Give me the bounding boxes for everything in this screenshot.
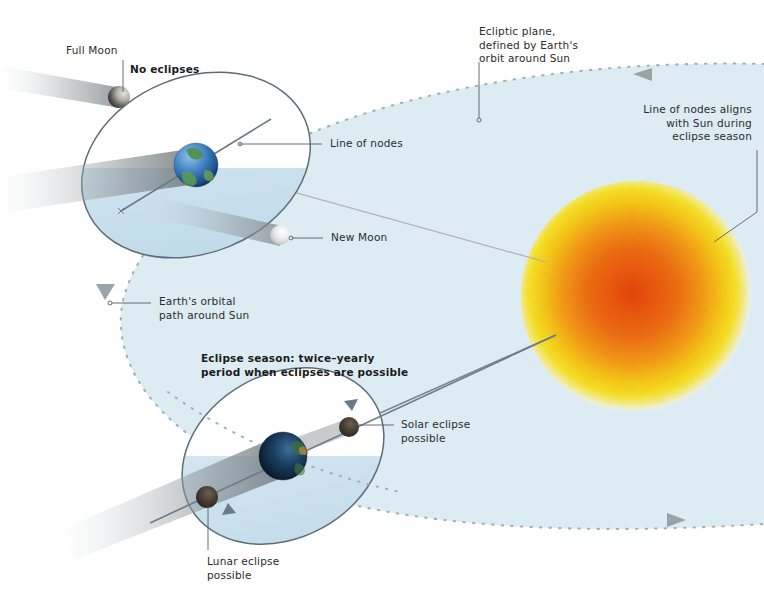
earth-sphere-upper	[174, 143, 218, 187]
sun-sphere	[521, 181, 753, 413]
moon-new-sphere	[270, 225, 290, 245]
moon-solar-eclipse-sphere	[339, 417, 359, 437]
diagram-canvas: Full Moon No eclipses Line of nodes New …	[0, 0, 764, 610]
moon-full-sphere	[108, 86, 130, 108]
eclipse-season-diagram	[0, 0, 764, 610]
moon-lunar-eclipse-sphere	[196, 486, 218, 508]
